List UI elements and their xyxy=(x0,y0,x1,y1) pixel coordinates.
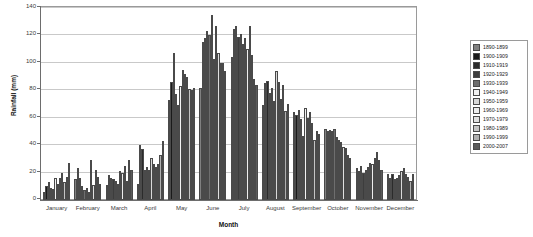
x-tick-label: August xyxy=(260,205,291,211)
legend-label: 1900-1909 xyxy=(483,54,508,59)
legend-label: 1990-1999 xyxy=(483,135,508,140)
x-tick-label: March xyxy=(104,205,135,211)
bar xyxy=(99,184,101,200)
legend-item[interactable]: 1890-1899 xyxy=(473,43,525,52)
y-tick-mark xyxy=(37,6,40,7)
x-tick-label: November xyxy=(354,205,385,211)
legend-label: 1940-1949 xyxy=(483,90,508,95)
legend-swatch-icon xyxy=(473,143,480,150)
y-tick-label: 0 xyxy=(6,195,36,201)
legend-swatch-icon xyxy=(473,53,480,60)
bar xyxy=(380,170,382,200)
legend-swatch-icon xyxy=(473,125,480,132)
y-tick-mark xyxy=(37,116,40,117)
bar-group xyxy=(322,7,353,200)
bar-group xyxy=(166,7,197,200)
legend-label: 1910-1919 xyxy=(483,63,508,68)
bar-group xyxy=(197,7,228,200)
x-tick-label: April xyxy=(135,205,166,211)
y-tick-mark xyxy=(37,171,40,172)
legend-swatch-icon xyxy=(473,62,480,69)
y-tick-mark xyxy=(37,88,40,89)
legend-item[interactable]: 2000-2007 xyxy=(473,142,525,151)
x-axis-line xyxy=(40,200,418,201)
legend-swatch-icon xyxy=(473,134,480,141)
legend-label: 1890-1899 xyxy=(483,45,508,50)
legend: 1890-18991900-19091910-19191920-19291930… xyxy=(470,40,528,154)
y-tick-mark xyxy=(37,143,40,144)
y-axis-title: Rainfall (mm) xyxy=(10,61,17,131)
legend-swatch-icon xyxy=(473,44,480,51)
bar xyxy=(412,174,414,200)
bar-group xyxy=(135,7,166,200)
bar-group xyxy=(229,7,260,200)
y-tick-label: 40 xyxy=(6,140,36,146)
bar-group xyxy=(260,7,291,200)
legend-label: 2000-2007 xyxy=(483,144,508,149)
legend-item[interactable]: 1950-1959 xyxy=(473,97,525,106)
x-tick-label: May xyxy=(166,205,197,211)
legend-swatch-icon xyxy=(473,98,480,105)
legend-item[interactable]: 1910-1919 xyxy=(473,61,525,70)
x-axis-labels: JanuaryFebruaryMarchAprilMayJuneJulyAugu… xyxy=(41,205,416,211)
bar xyxy=(162,141,164,200)
bar xyxy=(287,104,289,200)
x-axis-title: Month xyxy=(41,221,416,228)
y-tick-mark xyxy=(37,33,40,34)
y-tick-label: 20 xyxy=(6,168,36,174)
legend-swatch-icon xyxy=(473,116,480,123)
legend-swatch-icon xyxy=(473,80,480,87)
legend-swatch-icon xyxy=(473,71,480,78)
legend-label: 1960-1969 xyxy=(483,108,508,113)
legend-label: 1950-1959 xyxy=(483,99,508,104)
bar xyxy=(224,71,226,200)
legend-label: 1970-1979 xyxy=(483,117,508,122)
x-tick-label: July xyxy=(229,205,260,211)
legend-item[interactable]: 1920-1929 xyxy=(473,70,525,79)
legend-item[interactable]: 1990-1999 xyxy=(473,133,525,142)
legend-swatch-icon xyxy=(473,107,480,114)
rainfall-bar-chart: 020406080100120140 Rainfall (mm) January… xyxy=(0,0,533,237)
legend-item[interactable]: 1940-1949 xyxy=(473,88,525,97)
bar xyxy=(130,170,132,200)
bar-groups xyxy=(41,7,416,200)
legend-item[interactable]: 1900-1909 xyxy=(473,52,525,61)
bar-group xyxy=(385,7,416,200)
x-tick-label: January xyxy=(41,205,72,211)
bar xyxy=(68,163,70,200)
legend-label: 1980-1989 xyxy=(483,126,508,131)
y-tick-label: 120 xyxy=(6,30,36,36)
bar-group xyxy=(72,7,103,200)
x-tick-label: September xyxy=(291,205,322,211)
legend-item[interactable]: 1970-1979 xyxy=(473,115,525,124)
x-tick-label: December xyxy=(385,205,416,211)
bar xyxy=(255,85,257,200)
x-tick-label: February xyxy=(72,205,103,211)
legend-swatch-icon xyxy=(473,89,480,96)
x-tick-label: June xyxy=(197,205,228,211)
legend-label: 1930-1939 xyxy=(483,81,508,86)
bar-group xyxy=(41,7,72,200)
legend-item[interactable]: 1980-1989 xyxy=(473,124,525,133)
y-tick-label: 140 xyxy=(6,3,36,9)
legend-item[interactable]: 1960-1969 xyxy=(473,106,525,115)
bar xyxy=(193,88,195,200)
legend-item[interactable]: 1930-1939 xyxy=(473,79,525,88)
legend-label: 1920-1929 xyxy=(483,72,508,77)
bar xyxy=(318,134,320,200)
bar-group xyxy=(354,7,385,200)
bar-group xyxy=(104,7,135,200)
bar-group xyxy=(291,7,322,200)
bar xyxy=(349,158,351,201)
y-tick-mark xyxy=(37,61,40,62)
y-tick-mark xyxy=(37,198,40,199)
x-tick-label: October xyxy=(322,205,353,211)
